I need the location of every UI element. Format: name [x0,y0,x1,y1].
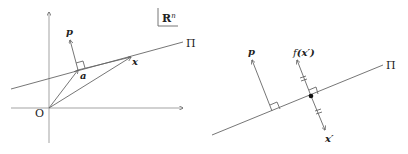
space-label: Rn [162,12,176,25]
point-a-label: a [80,70,86,81]
point-x-label: x [131,56,139,67]
normal-p-label-right: p [248,46,255,57]
reflection-label: f(x′) [292,47,315,58]
plane-label-right: Π [386,59,396,72]
normal-p-label: p [66,26,73,37]
point-xprime-label: x′ [324,133,334,144]
plane-label-left: Π [186,37,196,50]
origin-label: O [35,107,44,120]
labels-layer: Rn O Π a x p Π p f(x′) x′ [0,0,408,154]
